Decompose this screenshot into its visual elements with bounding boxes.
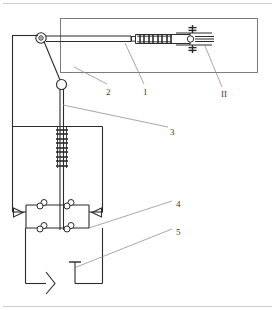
- diagram-canvas: 1 2 3 4 5 II: [0, 0, 275, 310]
- head-bolt-lower-icon: [189, 45, 197, 53]
- main-structure-outline: [12, 36, 38, 213]
- tank-symbol: [69, 262, 81, 284]
- outer-page-frame: [3, 4, 272, 307]
- valve-pair-upper-left: [37, 200, 47, 210]
- head-bolt-upper-icon: [189, 25, 197, 33]
- boom-horizontal-arm: [46, 36, 131, 42]
- pump-arrow-symbol: [46, 272, 55, 294]
- boom-enclosure: [61, 19, 258, 73]
- callout-roman-2: II: [221, 90, 227, 99]
- callout-5: 5: [176, 228, 181, 237]
- valve-pair-lower-left: [37, 223, 47, 233]
- mast-spring-pack: [56, 127, 68, 168]
- valve-pair-lower-right: [64, 223, 74, 233]
- callout-leader-lines: [63, 43, 222, 268]
- callout-1: 1: [143, 88, 148, 97]
- hinge-joint-circle: [57, 80, 67, 90]
- callout-2: 2: [106, 88, 111, 97]
- boom-tie-rod: [44, 42, 60, 81]
- callout-4: 4: [176, 200, 181, 209]
- callout-3: 3: [170, 128, 175, 137]
- check-valve-bridge: [13, 205, 103, 228]
- lower-chamber-box: [26, 228, 103, 284]
- schematic-drawing: [0, 0, 275, 310]
- mast-vertical-rod: [60, 89, 64, 230]
- boom-spring-pack: [137, 35, 172, 43]
- valve-pair-upper-right: [64, 200, 74, 210]
- boom-arm-junction: [132, 37, 136, 42]
